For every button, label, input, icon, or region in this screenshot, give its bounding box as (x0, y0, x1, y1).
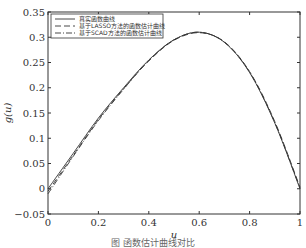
x-tick-label: 0.4 (141, 217, 157, 228)
series-line-1 (48, 33, 300, 192)
y-tick-label: 0.05 (23, 158, 45, 169)
x-tick-label: 1 (297, 217, 303, 228)
y-tick-label: 0.35 (23, 7, 45, 18)
line-chart: 00.20.40.60.81−0.0500.050.10.150.20.250.… (0, 0, 306, 248)
series-line-2 (48, 32, 300, 194)
y-tick-label: 0.25 (23, 57, 45, 68)
legend-label: 基于SCAD方法的函数估计曲线 (79, 29, 162, 37)
x-tick-label: 0.2 (90, 217, 106, 228)
x-tick-label: 0.8 (242, 217, 258, 228)
y-tick-label: 0.3 (29, 32, 45, 43)
plot-frame (48, 12, 300, 214)
y-tick-label: −0.05 (14, 209, 45, 220)
y-tick-label: 0.2 (29, 82, 45, 93)
y-tick-label: 0.15 (23, 108, 45, 119)
y-axis-label: g(u) (2, 103, 13, 124)
x-tick-label: 0 (45, 217, 51, 228)
figure-caption: 图 函数估计曲线对比 (0, 236, 306, 248)
series-line-0 (48, 32, 300, 189)
y-tick-label: 0.1 (29, 133, 45, 144)
x-tick-label: 0.6 (191, 217, 207, 228)
y-tick-label: 0 (39, 183, 45, 194)
plot-area: 00.20.40.60.81−0.0500.050.10.150.20.250.… (2, 7, 303, 241)
